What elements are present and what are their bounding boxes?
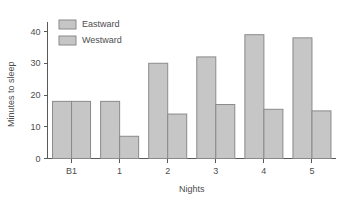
x-tick-label: B1 (66, 166, 77, 176)
bar-eastward-2 (149, 63, 168, 158)
bar-eastward-3 (197, 57, 216, 159)
y-axis-title: Minutes to sleep (6, 61, 16, 127)
y-tick-label: 30 (30, 58, 40, 68)
bar-westward-b1 (72, 101, 91, 158)
legend-label-eastward: Eastward (82, 19, 120, 29)
x-tick-label: 1 (117, 166, 122, 176)
y-tick-label: 20 (30, 90, 40, 100)
bar-westward-5 (312, 111, 331, 159)
bar-eastward-1 (101, 101, 120, 158)
bar-westward-3 (216, 105, 235, 159)
y-tick-label: 0 (35, 154, 40, 164)
x-tick-label: 5 (309, 166, 314, 176)
legend-swatch-eastward (59, 20, 76, 29)
bar-eastward-4 (245, 35, 264, 159)
x-axis-title: Nights (179, 184, 205, 194)
y-tick-label: 40 (30, 27, 40, 37)
x-tick-label: 3 (213, 166, 218, 176)
legend-label-westward: Westward (82, 35, 122, 45)
bar-eastward-b1 (53, 101, 72, 158)
x-tick-label: 4 (261, 166, 266, 176)
bar-westward-4 (264, 109, 283, 158)
chart-canvas: 010203040Minutes to sleepB112345NightsEa… (0, 0, 344, 203)
bar-chart-figure: 010203040Minutes to sleepB112345NightsEa… (0, 0, 344, 203)
bar-eastward-5 (293, 38, 312, 159)
legend-swatch-westward (59, 36, 76, 45)
y-tick-label: 10 (30, 122, 40, 132)
x-tick-label: 2 (165, 166, 170, 176)
plot-area: 010203040Minutes to sleepB112345NightsEa… (6, 19, 336, 193)
bar-westward-1 (120, 136, 139, 158)
bar-westward-2 (168, 114, 187, 158)
